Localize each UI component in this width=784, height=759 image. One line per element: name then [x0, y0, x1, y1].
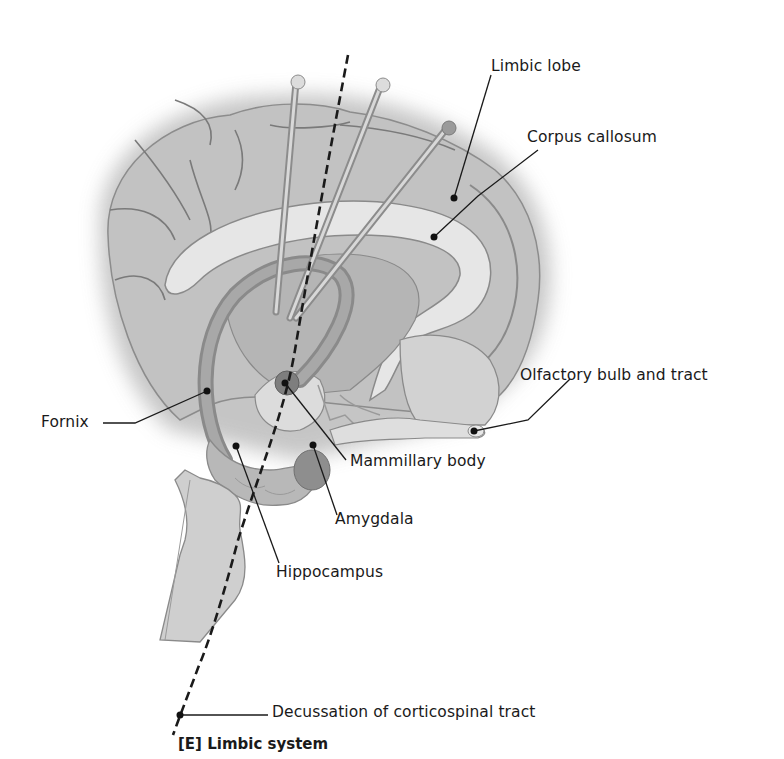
label-amygdala: Amygdala [335, 510, 414, 528]
label-limbic-lobe: Limbic lobe [491, 57, 581, 75]
label-olfactory-bulb-and-tract: Olfactory bulb and tract [520, 366, 708, 384]
label-hippocampus: Hippocampus [276, 563, 383, 581]
label-mammillary-body: Mammillary body [350, 452, 486, 470]
amygdala-shape [294, 450, 330, 490]
label-fornix: Fornix [41, 413, 89, 431]
figure-caption: [E] Limbic system [178, 735, 328, 753]
label-corpus-callosum: Corpus callosum [527, 128, 657, 146]
brainstem [160, 470, 245, 642]
label-decussation: Decussation of corticospinal tract [272, 703, 535, 721]
limbic-system-figure: Limbic lobe Corpus callosum Olfactory bu… [0, 0, 784, 759]
